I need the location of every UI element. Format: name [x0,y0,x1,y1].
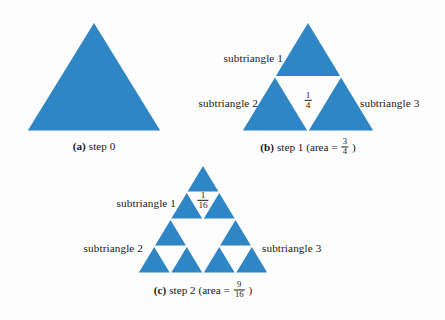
fraction: 14 [305,90,312,110]
panel-c-caption-text: step 2 (area = [169,284,230,296]
panel-b-label-subtriangle-3: subtriangle 3 [360,97,419,109]
filled-triangle [204,247,235,273]
filled-triangle [139,247,170,273]
filled-triangle [276,23,340,76]
panel-b-caption: (b)step 1 (area =34) [260,137,355,156]
filled-triangle [171,247,202,273]
panel-c-label-subtriangle-1: subtriangle 1 [117,197,176,209]
panel-c-caption-tag: (c) [154,284,166,296]
panel-a-caption: (a)step 0 [73,140,115,152]
filled-triangle [220,220,251,246]
panel-c-area-fraction-sixteenth: 116 [196,191,209,211]
fraction-numerator: 1 [200,190,207,200]
fraction: 34 [342,137,348,156]
fraction-numerator: 1 [305,90,312,100]
panel-b-triangle [243,23,373,131]
panel-c-caption: (c)step 2 (area =916) [154,280,252,299]
fraction-denominator: 16 [234,289,245,299]
panel-b-caption-tag: (b) [260,141,274,153]
panel-b-caption-text: step 1 (area = [277,141,338,153]
panel-b-caption-suffix: ) [352,141,356,153]
fraction-denominator: 4 [305,100,312,111]
fraction-numerator: 3 [342,137,348,146]
panel-c-triangle [139,166,267,273]
panel-b-area-fraction-quarter: 14 [304,91,313,111]
filled-triangle [188,166,219,192]
panel-b-label-subtriangle-2: subtriangle 2 [199,97,258,109]
panel-c-label-subtriangle-2: subtriangle 2 [84,242,143,254]
panel-b-label-subtriangle-1: subtriangle 1 [224,52,283,64]
panel-c-caption-suffix: ) [248,284,252,296]
fraction: 916 [234,280,245,299]
fraction-denominator: 16 [197,200,208,211]
panel-a-caption-text: step 0 [89,140,115,152]
filled-triangle [28,23,160,131]
fraction-numerator: 9 [236,280,242,289]
fraction: 116 [197,190,208,210]
sierpinski-svg [0,0,445,320]
sierpinski-figure: (a)step 0subtriangle 1subtriangle 2subtr… [0,0,445,320]
panel-a-triangle [28,23,160,131]
panel-a-caption-tag: (a) [73,140,86,152]
fraction-denominator: 4 [342,146,348,156]
panel-c-label-subtriangle-3: subtriangle 3 [262,242,321,254]
filled-triangle [155,220,186,246]
